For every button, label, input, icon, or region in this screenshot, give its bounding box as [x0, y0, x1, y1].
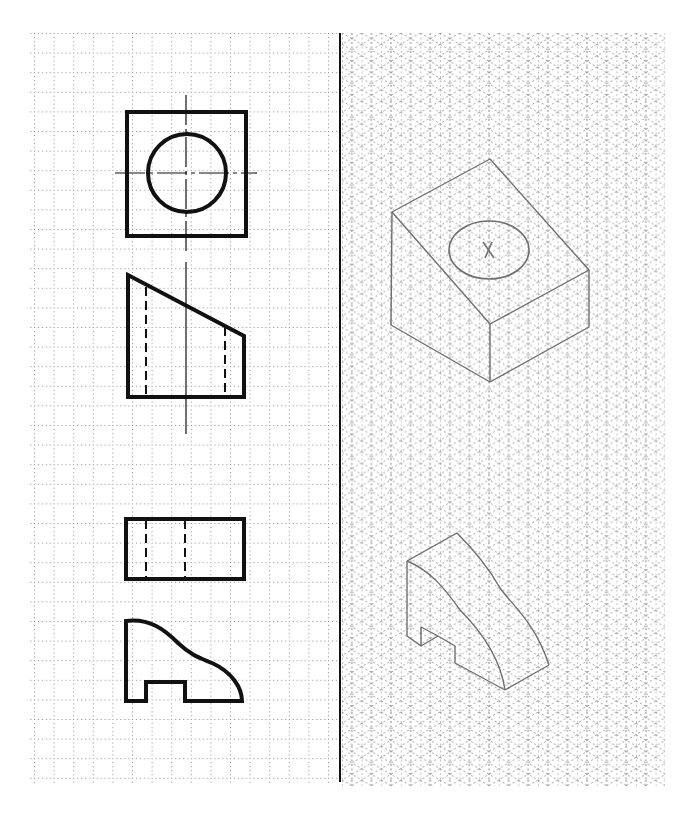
drawing-sheet [0, 0, 687, 817]
square-dot-grid [28, 33, 338, 783]
isometric-dot-grid [342, 33, 665, 786]
